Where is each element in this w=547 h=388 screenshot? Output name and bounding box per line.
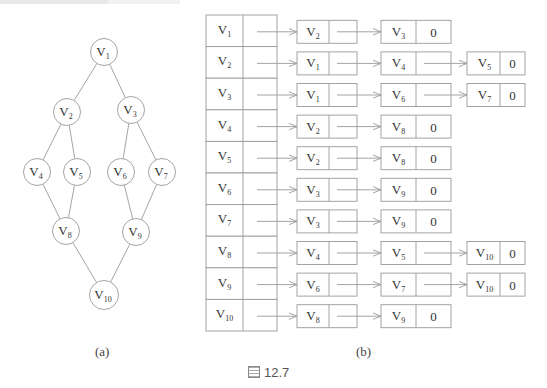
list-node-v8: V80 (381, 115, 451, 138)
list-node-v7: V7 (381, 273, 467, 296)
head-row-v8: V8V4V5V100 (206, 236, 525, 268)
list-node-v5: V50 (467, 52, 525, 75)
list-node-v1: V1 (297, 52, 381, 75)
null-pointer: 0 (430, 309, 437, 324)
graph-node-v9: V9 (123, 219, 150, 246)
list-node-v8: V80 (381, 147, 451, 170)
head-node (206, 173, 277, 205)
graph-edge (74, 63, 97, 100)
list-node-v7: V70 (467, 84, 525, 107)
head-row-v10: V10V8V90 (206, 299, 451, 331)
list-node-v3: V30 (381, 20, 451, 43)
list-node-box (467, 52, 525, 75)
figure-glyph-icon (248, 366, 260, 378)
null-pointer: 0 (509, 246, 516, 261)
head-node (206, 268, 277, 300)
graph-edge (68, 185, 74, 217)
list-node-v4: V4 (297, 242, 381, 265)
null-pointer: 0 (509, 88, 516, 103)
list-node-v10: V100 (467, 242, 525, 265)
head-row-v6: V6V3V90 (206, 173, 451, 205)
list-node-box (467, 84, 525, 107)
list-node-v1: V1 (297, 84, 381, 107)
null-pointer: 0 (430, 120, 437, 135)
head-row-v5: V5V2V80 (206, 141, 451, 173)
list-node-v5: V5 (381, 242, 467, 265)
list-node-v6: V6 (297, 273, 381, 296)
figure-number-label: 12.7 (248, 365, 289, 380)
graph-edge (110, 64, 126, 98)
head-row-v2: V2V1V4V50 (206, 47, 525, 79)
graph-edge (73, 243, 97, 284)
graph-node-v3: V3 (118, 97, 145, 124)
graph-edge (123, 123, 129, 158)
graph-node-v8: V8 (53, 218, 80, 245)
null-pointer: 0 (430, 25, 437, 40)
null-pointer: 0 (430, 183, 437, 198)
null-pointer: 0 (430, 214, 437, 229)
panel-a-caption: (a) (95, 344, 109, 360)
list-node-v9: V90 (381, 305, 451, 328)
head-node (206, 205, 277, 237)
null-pointer: 0 (430, 151, 437, 166)
head-node (206, 236, 277, 268)
head-node (206, 141, 277, 173)
list-node-v6: V6 (381, 84, 467, 107)
head-row-v4: V4V2V80 (206, 110, 451, 142)
head-node (206, 78, 277, 110)
list-node-v3: V3 (297, 178, 381, 201)
null-pointer: 0 (509, 56, 516, 71)
graph-edge (69, 125, 75, 158)
head-node (206, 47, 277, 79)
graph-edge (110, 244, 130, 283)
graph-edge (141, 184, 156, 219)
adjacency-list: V1V2V30V2V1V4V50V3V1V6V70V4V2V80V5V2V80V… (206, 15, 525, 331)
graph-node-v7: V7 (149, 159, 176, 186)
list-node-v2: V2 (297, 147, 381, 170)
graph-edge (43, 124, 61, 160)
panel-b-caption: (b) (356, 344, 371, 360)
list-node-v9: V90 (381, 210, 451, 233)
figure-canvas: V1V2V3V4V5V6V7V8V9V10 V1V2V30V2V1V4V50V3… (0, 0, 547, 388)
null-pointer: 0 (509, 278, 516, 293)
graph-edge (137, 122, 156, 160)
graph-node-v4: V4 (24, 159, 51, 186)
head-node (206, 110, 277, 142)
list-node-v4: V4 (381, 52, 467, 75)
graph-node-v2: V2 (54, 99, 81, 126)
list-node-v9: V90 (381, 178, 451, 201)
graph-node-v6: V6 (108, 159, 135, 186)
list-node-v10: V100 (467, 273, 525, 296)
graph-node-v10: V10 (90, 281, 119, 310)
graph-nodes: V1V2V3V4V5V6V7V8V9V10 (24, 39, 176, 310)
graph-node-v1: V1 (91, 39, 118, 66)
list-node-v2: V2 (297, 115, 381, 138)
graph-node-v5: V5 (64, 159, 91, 186)
head-row-v3: V3V1V6V70 (206, 78, 525, 110)
graph-edge (124, 185, 132, 219)
graph-edges (43, 63, 157, 283)
list-node-v3: V3 (297, 210, 381, 233)
head-row-v1: V1V2V30 (206, 15, 451, 47)
list-node-v8: V8 (297, 305, 381, 328)
list-node-v2: V2 (297, 20, 381, 43)
head-node (206, 15, 277, 47)
figure-number-text: 12.7 (264, 365, 289, 380)
head-row-v7: V7V3V90 (206, 205, 451, 237)
head-row-v9: V9V6V7V100 (206, 268, 525, 300)
graph-edge (43, 184, 60, 219)
